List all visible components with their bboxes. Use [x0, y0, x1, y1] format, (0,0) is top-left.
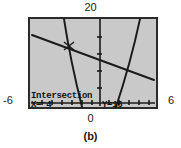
- calculator-readout-x: X=⁻4: [31, 101, 51, 110]
- figure-caption: (b): [0, 130, 181, 142]
- axis-label-left: -6: [3, 95, 13, 106]
- axis-label-bottom: 0: [0, 113, 181, 124]
- axis-label-right: 6: [168, 95, 174, 106]
- axis-label-top: 20: [0, 2, 181, 13]
- calculator-readout-y: Y=16: [102, 101, 122, 110]
- calculator-figure: 20 -6 6 0: [0, 0, 181, 148]
